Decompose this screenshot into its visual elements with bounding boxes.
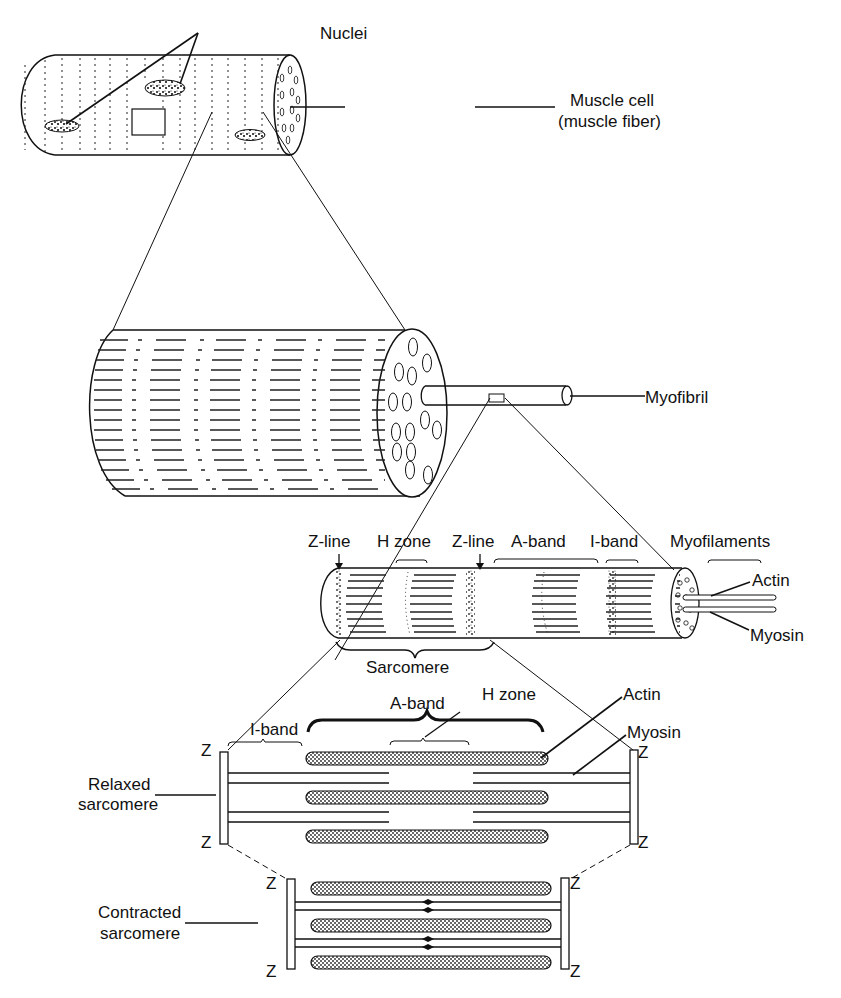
z-line-right-label: Z-line xyxy=(452,532,495,551)
a-band-label-relaxed: A-band xyxy=(390,694,445,713)
contracted-sarcomere-diagram xyxy=(185,878,569,969)
myosin-label-top: Myosin xyxy=(750,626,804,645)
z-label-relaxed-bottom-left: Z xyxy=(201,833,211,852)
a-band-label: A-band xyxy=(511,532,566,551)
z-disc-right xyxy=(561,878,569,969)
nuclei-label: Nuclei xyxy=(320,24,367,43)
relaxed-label-line2: sarcomere xyxy=(78,795,158,814)
myosin-label-relaxed: Myosin xyxy=(627,723,681,742)
h-zone-label-relaxed: H zone xyxy=(482,685,536,704)
sarcomere-label: Sarcomere xyxy=(366,658,449,677)
z-disc-right xyxy=(630,750,638,844)
z-disc-left xyxy=(287,879,295,969)
muscle-cell-diagram xyxy=(21,33,345,155)
z-label-contracted-bottom-right: Z xyxy=(570,962,580,981)
h-zone-label: H zone xyxy=(377,532,431,551)
z-disc-left xyxy=(220,752,228,844)
z-label-relaxed-top-right: Z xyxy=(638,743,648,762)
actin-label-relaxed: Actin xyxy=(623,685,661,704)
z-label-relaxed-top-left: Z xyxy=(201,741,211,760)
z-line-left-label: Z-line xyxy=(308,532,351,551)
contracted-label-line2: sarcomere xyxy=(100,924,180,943)
contracted-label-line1: Contracted xyxy=(98,903,181,922)
z-label-contracted-bottom-left: Z xyxy=(266,962,276,981)
z-label-contracted-top-right: Z xyxy=(570,874,580,893)
nucleus xyxy=(235,130,265,141)
relaxed-sarcomere-diagram xyxy=(155,697,638,878)
zoom-region-box xyxy=(132,109,165,135)
actin-label-top: Actin xyxy=(752,571,790,590)
nucleus xyxy=(45,120,79,132)
relaxed-label-line1: Relaxed xyxy=(88,775,150,794)
nucleus xyxy=(145,80,185,96)
myofilaments-label: Myofilaments xyxy=(670,532,770,551)
fiber-bundle-diagram xyxy=(90,329,645,497)
z-label-relaxed-bottom-right: Z xyxy=(638,833,648,852)
muscle-fiber-label: (muscle fiber) xyxy=(558,112,661,131)
myofibril-label: Myofibril xyxy=(645,388,708,407)
i-band-label: I-band xyxy=(590,532,638,551)
i-band-label-relaxed: I-band xyxy=(250,720,298,739)
z-label-contracted-top-left: Z xyxy=(266,874,276,893)
muscle-cell-label: Muscle cell xyxy=(570,91,654,110)
